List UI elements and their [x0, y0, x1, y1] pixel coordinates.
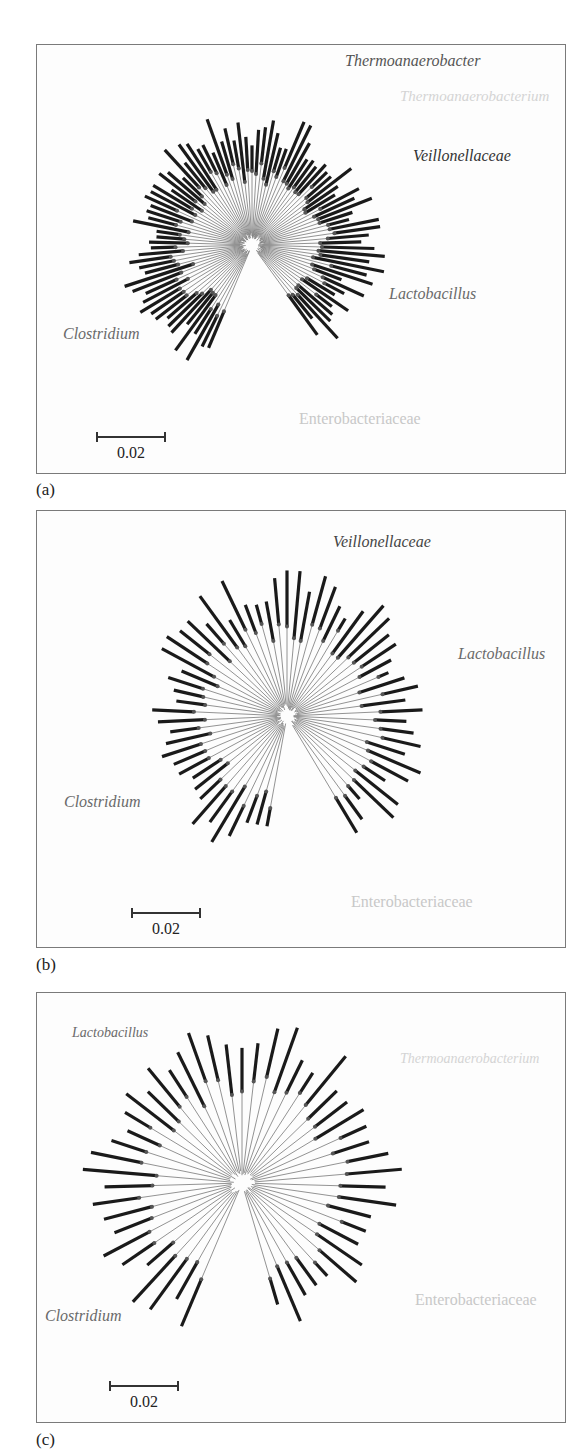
clade-label-clostridium: Clostridium — [64, 793, 140, 811]
clade-label-thermoanaerobacter: Thermoanaerobacter — [345, 52, 480, 70]
panel-label-b: (b) — [36, 955, 56, 975]
clade-label-veillonellaceae: Veillonellaceae — [333, 533, 431, 551]
clade-label-clostridium: Clostridium — [63, 325, 139, 343]
panel-b-tree — [36, 510, 566, 948]
panel-label-a: (a) — [36, 480, 55, 500]
clade-label-lactobacillus: Lactobacillus — [72, 1025, 148, 1041]
clade-label-enterobacteriaceae: Enterobacteriaceae — [299, 410, 421, 428]
clade-label-thermoanaerobacterium: Thermoanaerobacterium — [400, 1051, 539, 1067]
phylogenetic-tree-b — [37, 511, 567, 949]
clade-label-clostridium: Clostridium — [45, 1307, 121, 1325]
clade-label-veillonellaceae: Veillonellaceae — [413, 147, 511, 165]
clade-label-lactobacillus: Lactobacillus — [458, 645, 545, 663]
clade-label-thermoanaerobacterium: Thermoanaerobacterium — [400, 88, 549, 105]
panel-label-c: (c) — [36, 1430, 55, 1450]
scale-bar-value: 0.02 — [96, 444, 166, 462]
clade-label-lactobacillus: Lactobacillus — [389, 285, 476, 303]
scale-bar-line — [109, 1385, 179, 1387]
scale-bar-value: 0.02 — [131, 920, 201, 938]
clade-label-enterobacteriaceae: Enterobacteriaceae — [351, 893, 473, 911]
scale-bar-line — [96, 436, 166, 438]
clade-label-enterobacteriaceae: Enterobacteriaceae — [415, 1291, 537, 1309]
scale-bar-line — [131, 912, 201, 914]
scale-bar-value: 0.02 — [109, 1393, 179, 1411]
